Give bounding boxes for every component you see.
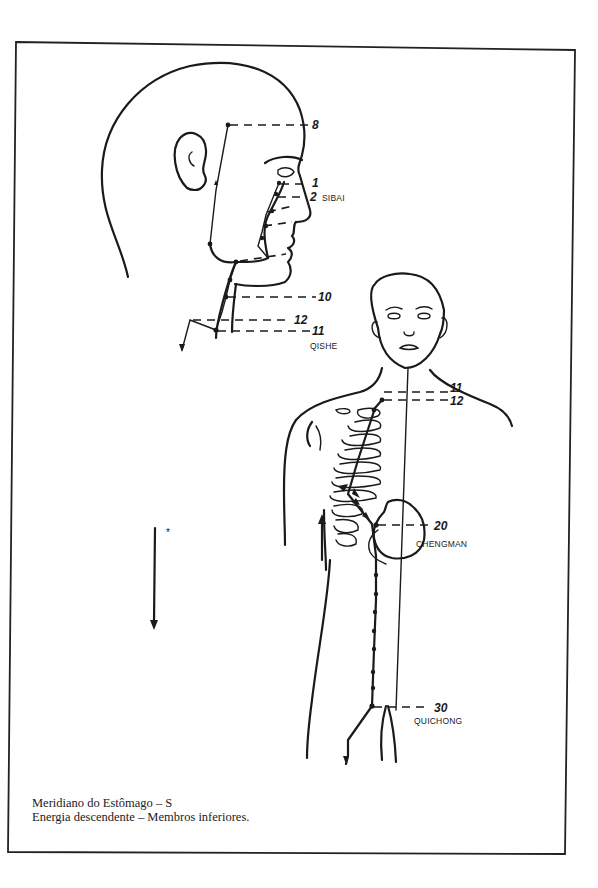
point-12-body-label: 12 <box>450 394 464 408</box>
head-meridian-path <box>179 123 281 352</box>
head-profile-figure <box>102 63 311 338</box>
point-30-label: 30 <box>434 701 448 715</box>
stomach-meridian-diagram: 8 1 2 SIBAI 10 12 11 QISHE <box>0 0 598 888</box>
point-11-body-label: 11 <box>450 381 463 395</box>
body-meridian-path <box>318 368 408 764</box>
body-leader-lines <box>374 392 448 707</box>
caption-subtitle: Energia descendente – Membros inferiores… <box>32 810 249 824</box>
point-1-label: 1 <box>312 176 319 190</box>
point-2-name: SIBAI <box>322 193 345 203</box>
point-12-head-label: 12 <box>294 313 308 327</box>
figure-caption: Meridiano do Estômago – S Energia descen… <box>32 796 249 824</box>
stomach-organ <box>374 500 425 559</box>
point-30-name: QUICHONG <box>414 716 462 726</box>
point-11-head-label: 11 <box>312 324 325 338</box>
point-11-head-name: QISHE <box>310 341 338 351</box>
point-2-label: 2 <box>309 190 317 204</box>
point-8-label: 8 <box>312 118 319 132</box>
point-20-name: CHENGMAN <box>416 539 467 549</box>
page-border <box>8 42 575 854</box>
point-10-label: 10 <box>318 290 332 304</box>
point-20-label: 20 <box>433 519 448 533</box>
descending-energy-arrow <box>150 528 158 630</box>
arrow-marker: * <box>166 527 170 538</box>
caption-title: Meridiano do Estômago – S <box>32 796 249 810</box>
